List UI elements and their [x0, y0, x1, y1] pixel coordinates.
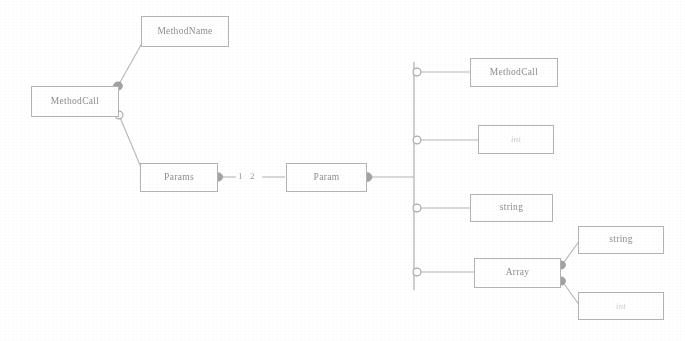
node-string-mid-label: string [500, 203, 523, 213]
node-method-call-left[interactable]: MethodCall [31, 86, 119, 117]
node-int-bottom[interactable]: int [578, 292, 664, 320]
node-params[interactable]: Params [140, 163, 218, 192]
multiplicity-label-one: 1 [238, 172, 243, 181]
node-method-call-left-label: MethodCall [51, 97, 99, 107]
node-param-label: Param [314, 173, 340, 183]
node-method-call-right-label: MethodCall [490, 68, 538, 78]
node-param[interactable]: Param [286, 163, 367, 192]
hollow-circle-bar-2 [413, 136, 421, 144]
hollow-circle-bar-3 [413, 204, 421, 212]
node-int-top-label: int [511, 135, 521, 144]
node-string-right-label: string [609, 235, 632, 245]
hollow-circle-bar-4 [413, 268, 421, 276]
node-int-bottom-label: int [616, 302, 626, 311]
node-method-name[interactable]: MethodName [141, 16, 229, 47]
node-method-call-right[interactable]: MethodCall [470, 58, 558, 87]
node-string-right[interactable]: string [578, 226, 664, 254]
node-params-label: Params [164, 173, 194, 183]
node-method-name-label: MethodName [157, 27, 212, 37]
node-int-top[interactable]: int [478, 125, 554, 154]
node-string-mid[interactable]: string [470, 194, 553, 222]
node-array-label: Array [506, 268, 530, 278]
node-array[interactable]: Array [474, 258, 561, 288]
hollow-circle-bar-1 [413, 68, 421, 76]
multiplicity-label-two: 2 [250, 172, 255, 181]
diagram-canvas: MethodName MethodCall Params 1 2 Param M… [0, 0, 685, 341]
